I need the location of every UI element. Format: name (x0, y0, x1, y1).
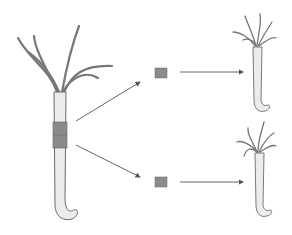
parent-hydra (18, 26, 112, 220)
parent-body (54, 92, 78, 220)
arrow-down (76, 145, 140, 177)
fragment-top (155, 68, 167, 78)
regenerated-hydra-bottom (237, 122, 276, 216)
hydra-regeneration-diagram (0, 0, 292, 235)
arrow-up (76, 82, 140, 121)
fragment-bottom (155, 177, 167, 187)
regenerated-hydra-top (233, 14, 276, 111)
parent-tentacles (18, 26, 112, 92)
